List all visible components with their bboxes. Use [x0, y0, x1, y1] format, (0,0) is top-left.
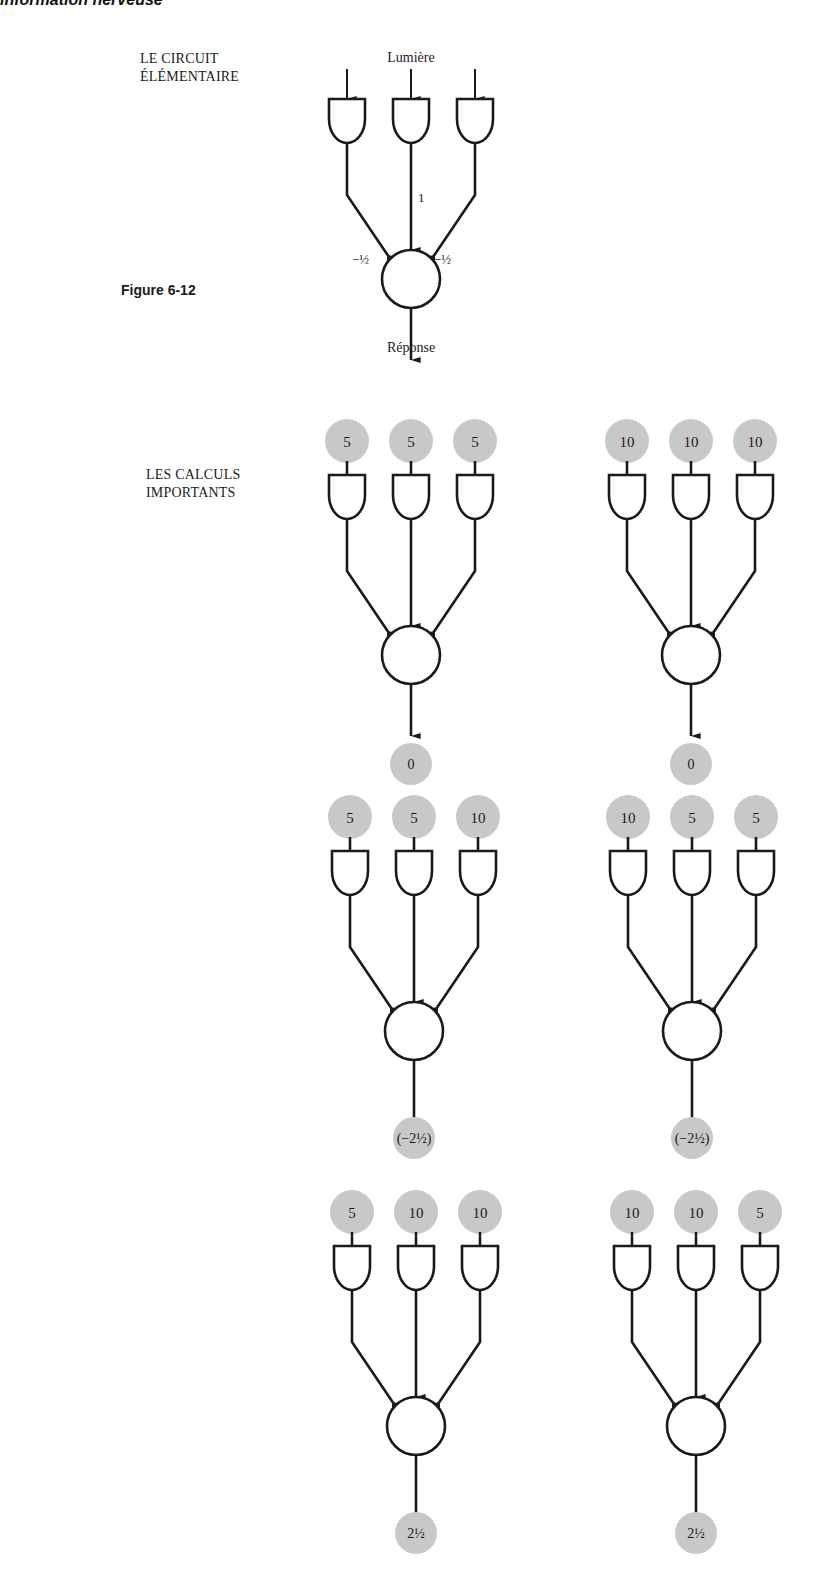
receptor-icon: [329, 475, 365, 519]
receptor-icon: [737, 475, 773, 519]
input-value: 10: [620, 434, 635, 450]
input-value: 10: [473, 1205, 488, 1221]
neuron-cell: [662, 626, 720, 684]
elementary-circuit: Lumière Réponse 1 −½ −½: [352, 50, 451, 355]
output-value: 0: [688, 757, 695, 772]
input-value: 5: [407, 434, 415, 450]
input-value: 10: [409, 1205, 424, 1221]
output-value: 2½: [407, 1526, 425, 1541]
output-value: 0: [408, 757, 415, 772]
neuron-cell: [387, 1397, 445, 1455]
input-value: 10: [621, 810, 636, 826]
circuit-r3-right: 101052½: [610, 1190, 782, 1554]
receptor-icon: [457, 99, 493, 143]
inhibitory-wire-right: [435, 895, 478, 1011]
receptor-icon: [398, 1246, 434, 1290]
neuron-cell: [382, 250, 440, 308]
inhibitory-wire-left: [627, 519, 670, 635]
elementary-circuit-shape: [329, 69, 493, 360]
inhibitory-wire-right: [713, 895, 756, 1011]
inhibitory-wire-left: [628, 895, 671, 1011]
receptor-icon: [738, 851, 774, 895]
input-value: 5: [410, 810, 418, 826]
inhibitory-wire-right: [712, 519, 755, 635]
circuit-r1-right: 1010100: [605, 419, 777, 785]
receptor-icon: [674, 851, 710, 895]
receptor-icon: [462, 1246, 498, 1290]
circuits-layer: 555010101005510(−2½)1055(−2½)510102½1010…: [325, 69, 782, 1554]
output-value: (−2½): [397, 1131, 432, 1147]
receptor-icon: [393, 99, 429, 143]
neuron-cell: [385, 1002, 443, 1060]
receptor-icon: [678, 1246, 714, 1290]
output-value: (−2½): [675, 1131, 710, 1147]
circuit-r1-left: 5550: [325, 419, 497, 785]
neuron-cell: [382, 626, 440, 684]
input-value: 10: [471, 810, 486, 826]
input-value: 5: [348, 1205, 356, 1221]
weight-left: −½: [352, 252, 369, 267]
receptor-icon: [460, 851, 496, 895]
receptor-icon: [614, 1246, 650, 1290]
inhibitory-wire-right: [437, 1290, 480, 1406]
receptor-icon: [393, 475, 429, 519]
input-value: 5: [346, 810, 354, 826]
inhibitory-wire-left: [350, 895, 393, 1011]
receptor-icon: [329, 99, 365, 143]
inhibitory-wire-right: [717, 1290, 760, 1406]
receptor-icon: [742, 1246, 778, 1290]
receptor-icon: [457, 475, 493, 519]
neuron-cell: [667, 1397, 725, 1455]
inhibitory-wire-left: [347, 519, 390, 635]
input-value: 5: [756, 1205, 764, 1221]
circuit-r3-left: 510102½: [330, 1190, 502, 1554]
circuit-r2-right: 1055(−2½): [606, 795, 778, 1159]
input-label: Lumière: [387, 50, 434, 65]
inhibitory-wire-left: [347, 143, 390, 259]
neuron-cell: [663, 1002, 721, 1060]
input-value: 10: [748, 434, 763, 450]
output-value: 2½: [687, 1526, 705, 1541]
circuit-r2-left: 5510(−2½): [328, 795, 500, 1159]
input-value: 5: [752, 810, 760, 826]
inhibitory-wire-left: [632, 1290, 675, 1406]
receptor-icon: [396, 851, 432, 895]
input-value: 5: [688, 810, 696, 826]
inhibitory-wire-right: [432, 143, 475, 259]
inhibitory-wire-left: [352, 1290, 395, 1406]
receptor-icon: [609, 475, 645, 519]
weight-center: 1: [418, 190, 425, 205]
input-value: 10: [684, 434, 699, 450]
receptor-icon: [332, 851, 368, 895]
neural-circuit-diagram: Lumière Réponse 1 −½ −½ 555010101005510(…: [0, 0, 822, 1571]
input-value: 5: [471, 434, 479, 450]
inhibitory-wire-right: [432, 519, 475, 635]
receptor-icon: [673, 475, 709, 519]
input-value: 10: [625, 1205, 640, 1221]
input-value: 10: [689, 1205, 704, 1221]
receptor-icon: [610, 851, 646, 895]
input-value: 5: [343, 434, 351, 450]
receptor-icon: [334, 1246, 370, 1290]
